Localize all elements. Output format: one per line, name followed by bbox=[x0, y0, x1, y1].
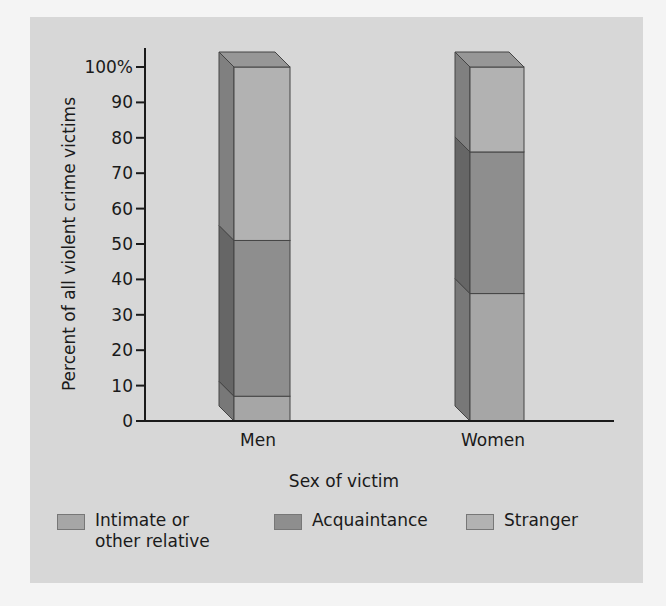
y-tick-label: 40 bbox=[111, 269, 133, 289]
bar-segment-men-2 bbox=[234, 67, 290, 240]
bar-side-women-1 bbox=[455, 137, 470, 294]
bar-side-women-2 bbox=[455, 52, 470, 152]
legend: Intimate or other relative Acquaintance … bbox=[0, 510, 666, 570]
legend-label: Acquaintance bbox=[312, 510, 428, 531]
bar-side-women-0 bbox=[455, 279, 470, 421]
bar-segment-men-1 bbox=[234, 240, 290, 396]
bar-segment-men-0 bbox=[234, 396, 290, 421]
legend-swatch-acquaintance bbox=[274, 514, 302, 530]
x-tick-label: Men bbox=[240, 430, 276, 450]
legend-item-acquaintance: Acquaintance bbox=[274, 510, 428, 531]
y-tick-label: 0 bbox=[122, 411, 133, 431]
y-tick-label: 100% bbox=[84, 57, 133, 77]
y-tick-label: 70 bbox=[111, 163, 133, 183]
y-tick-label: 30 bbox=[111, 305, 133, 325]
y-tick-label: 10 bbox=[111, 376, 133, 396]
bar-side-men-1 bbox=[219, 225, 234, 396]
y-tick-label: 50 bbox=[111, 234, 133, 254]
legend-label: Stranger bbox=[504, 510, 578, 531]
legend-item-intimate: Intimate or other relative bbox=[57, 510, 210, 552]
y-axis-title: Percent of all violent crime victims bbox=[59, 97, 79, 391]
bar-segment-women-0 bbox=[470, 294, 524, 421]
bar-segment-women-1 bbox=[470, 152, 524, 294]
y-tick-label: 90 bbox=[111, 92, 133, 112]
x-axis-title: Sex of victim bbox=[289, 471, 399, 491]
y-tick-label: 60 bbox=[111, 199, 133, 219]
legend-swatch-stranger bbox=[466, 514, 494, 530]
legend-label: Intimate or other relative bbox=[95, 510, 210, 552]
y-tick-label: 20 bbox=[111, 340, 133, 360]
bar-side-men-2 bbox=[219, 52, 234, 240]
y-tick-label: 80 bbox=[111, 128, 133, 148]
x-tick-label: Women bbox=[461, 430, 525, 450]
bar-segment-women-2 bbox=[470, 67, 524, 152]
legend-swatch-intimate bbox=[57, 514, 85, 530]
legend-item-stranger: Stranger bbox=[466, 510, 578, 531]
